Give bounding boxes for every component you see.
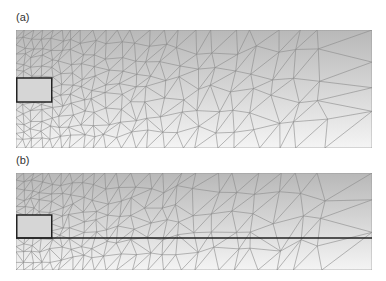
inclusion-rectangle (17, 78, 52, 102)
mesh-svg (16, 30, 372, 148)
panel-b-label: (b) (16, 154, 29, 166)
panel-b-mesh (16, 173, 372, 270)
panel-a-label: (a) (16, 11, 29, 23)
panel-a-mesh (16, 30, 372, 148)
mesh-svg (16, 173, 372, 270)
inclusion-rectangle (17, 215, 52, 238)
